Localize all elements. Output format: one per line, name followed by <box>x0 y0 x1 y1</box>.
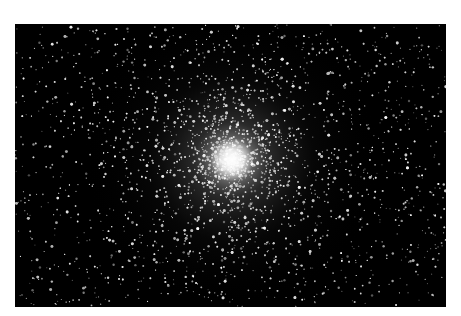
star-field <box>15 24 446 307</box>
star-cluster-photo <box>15 24 446 307</box>
